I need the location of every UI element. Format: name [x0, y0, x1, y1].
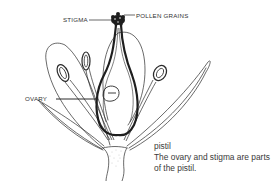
right-anther	[151, 63, 169, 83]
caption-body: The ovary and stigma are parts of the pi…	[154, 152, 274, 174]
caption-title: pistil	[154, 141, 274, 152]
style-right	[118, 25, 138, 135]
lower-left-sepal	[38, 100, 104, 150]
stigma-label: STIGMA	[63, 17, 88, 23]
ovule	[103, 86, 119, 101]
right-petal	[127, 61, 210, 150]
receptacle-stipple	[110, 150, 122, 167]
ovary-label: OVARY	[25, 96, 47, 102]
receptacle	[103, 148, 109, 181]
left-anther-1	[55, 63, 72, 84]
stigma	[111, 12, 125, 26]
left-stamen-filament-2	[86, 70, 112, 140]
pollen-grains-label: POLLEN GRAINS	[136, 13, 188, 19]
pistil-diagram: STIGMA POLLEN GRAINS OVARY pistil The ov…	[0, 0, 274, 181]
caption: pistil The ovary and stigma are parts of…	[154, 141, 274, 174]
left-petal	[46, 43, 110, 148]
